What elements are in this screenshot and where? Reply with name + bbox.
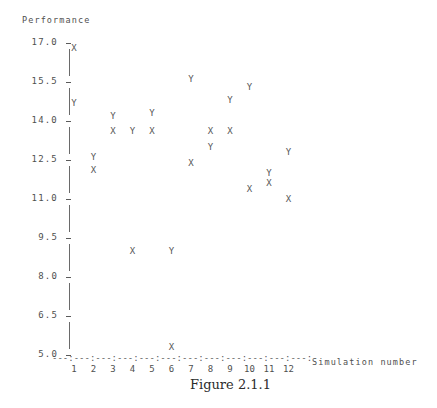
x-tick-label: 10 [243,364,257,374]
data-point-y: Y [147,108,157,118]
y-tick-label: 11.0 [18,193,58,203]
data-point-x: X [225,126,235,136]
data-point-x: X [245,184,255,194]
y-axis-spine-segment [69,322,70,349]
y-axis-spine-segment [69,244,70,271]
x-axis-rule: ---:---:---:---:---:---:---:---:---:---:… [52,353,312,363]
x-tick-label: 1 [67,364,81,374]
data-point-y: Y [206,142,216,152]
x-tick-label: 3 [106,364,120,374]
y-tick-label: 17.0 [18,37,58,47]
data-point-x: X [284,194,294,204]
x-tick-label: 2 [87,364,101,374]
y-axis-spine-segment [69,127,70,154]
data-point-x: X [264,178,274,188]
data-point-x: X [147,126,157,136]
scatter-plot: Performance Simulation number 17.015.514… [0,0,437,408]
y-tick-mark [66,199,71,200]
x-tick-label: 9 [223,364,237,374]
y-tick-mark [66,277,71,278]
y-tick-label: 15.5 [18,76,58,86]
y-tick-label: 9.5 [18,232,58,242]
data-point-x: X [89,165,99,175]
y-tick-mark [66,160,71,161]
data-point-y: Y [167,246,177,256]
data-point-y: Y [69,98,79,108]
y-tick-label: 14.0 [18,115,58,125]
y-tick-mark [66,316,71,317]
data-point-x: X [69,43,79,53]
data-point-y: Y [128,126,138,136]
figure-caption: Figure 2.1.1 [190,377,271,392]
data-point-x: X [128,246,138,256]
x-axis-title: Simulation number [312,357,418,367]
figure-container: Performance Simulation number 17.015.514… [0,0,437,408]
data-point-y: Y [225,95,235,105]
y-tick-label: 6.5 [18,310,58,320]
data-point-x: X [167,342,177,352]
data-point-y: Y [284,147,294,157]
y-tick-label: 12.5 [18,154,58,164]
x-tick-label: 4 [126,364,140,374]
y-tick-mark [66,82,71,83]
y-axis-spine-segment [69,283,70,310]
data-point-x: X [108,126,118,136]
x-tick-label: 12 [282,364,296,374]
y-axis-title: Performance [22,15,90,25]
x-tick-label: 11 [262,364,276,374]
y-axis-spine-segment [69,205,70,232]
data-point-y: Y [89,152,99,162]
x-tick-label: 7 [184,364,198,374]
x-tick-label: 6 [165,364,179,374]
data-point-y: Y [186,74,196,84]
data-point-y: Y [245,82,255,92]
data-point-y: Y [108,111,118,121]
y-tick-label: 8.0 [18,271,58,281]
data-point-x: X [186,158,196,168]
x-tick-label: 8 [204,364,218,374]
y-tick-mark [66,121,71,122]
y-axis-spine-segment [69,166,70,193]
data-point-x: X [206,126,216,136]
x-tick-label: 5 [145,364,159,374]
data-point-y: Y [264,168,274,178]
y-tick-mark [66,238,71,239]
